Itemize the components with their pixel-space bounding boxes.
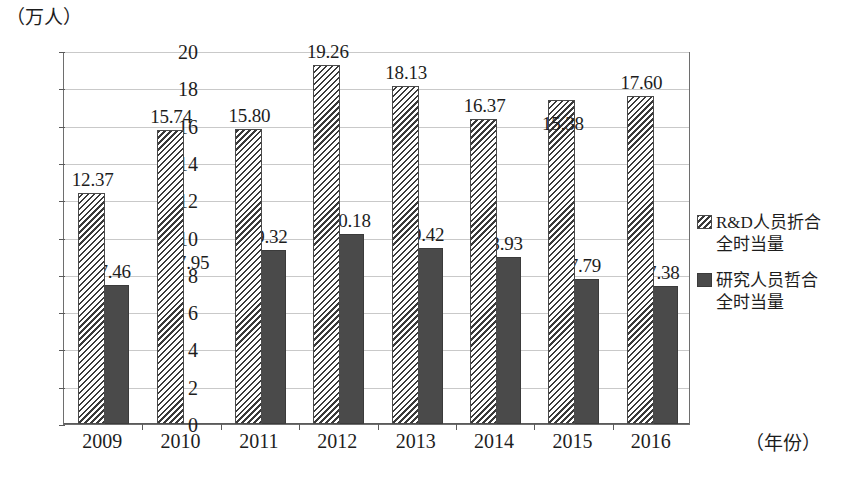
bar-research-personnel	[653, 286, 678, 424]
bar-chart: （万人） （年份） R&D人员折合 全时当量 研究人员哲合 全时当量 02468…	[0, 0, 863, 489]
y-axis-tick-mark	[59, 52, 65, 53]
legend-item-label-line2: 全时当量	[716, 234, 859, 256]
data-label-rd-personnel: 17.60	[620, 72, 662, 94]
y-axis-tick-label: 18	[138, 78, 198, 101]
y-axis-tick-mark	[59, 201, 65, 202]
bar-rd-personnel	[627, 96, 654, 424]
legend-item-label-line1: R&D人员折合	[716, 212, 859, 234]
x-axis-tick-label: 2015	[552, 430, 592, 453]
legend-item: R&D人员折合 全时当量	[697, 212, 859, 256]
solid-swatch-icon	[697, 273, 712, 287]
legend-item-label-line1: 研究人员哲合	[716, 270, 859, 292]
x-axis-tick-mark	[456, 424, 457, 430]
y-axis-unit-label: （万人）	[6, 2, 82, 29]
y-axis-tick-mark	[59, 127, 65, 128]
x-axis-tick-label: 2013	[396, 430, 436, 453]
y-axis-tick-mark	[59, 239, 65, 240]
x-axis-tick-label: 2014	[474, 430, 514, 453]
data-label-rd-personnel: 19.26	[307, 41, 349, 63]
hatch-swatch-icon	[697, 215, 712, 229]
legend-item-label-line2: 全时当量	[716, 292, 859, 314]
x-axis-unit-label: （年份）	[745, 428, 821, 455]
data-label-rd-personnel: 15.74	[150, 106, 192, 128]
x-axis-tick-mark	[378, 424, 379, 430]
chart-legend: R&D人员折合 全时当量 研究人员哲合 全时当量	[697, 212, 859, 328]
bar-research-personnel	[261, 250, 286, 424]
y-axis-tick-mark	[59, 276, 65, 277]
y-axis-tick-mark	[59, 388, 65, 389]
y-axis-tick-label: 20	[138, 41, 198, 64]
y-axis-tick-mark	[59, 313, 65, 314]
bar-rd-personnel	[392, 86, 419, 424]
bar-rd-personnel	[470, 119, 497, 424]
x-axis-tick-mark	[613, 424, 614, 430]
bar-research-personnel	[496, 257, 521, 424]
x-axis-tick-label: 2016	[631, 430, 671, 453]
bar-rd-personnel	[548, 100, 575, 425]
legend-item: 研究人员哲合 全时当量	[697, 270, 859, 314]
x-axis-tick-mark	[534, 424, 535, 430]
y-axis-tick-mark	[59, 164, 65, 165]
x-axis-tick-mark	[221, 424, 222, 430]
y-axis-tick-mark	[59, 350, 65, 351]
x-axis-tick-label: 2012	[317, 430, 357, 453]
bar-research-personnel	[574, 279, 599, 424]
data-label-rd-personnel: 18.13	[385, 62, 427, 84]
data-label-rd-personnel: 12.37	[72, 169, 114, 191]
data-label-rd-personnel: 15.80	[229, 105, 271, 127]
y-axis-tick-mark	[59, 89, 65, 90]
data-label-rd-personnel: 16.37	[464, 95, 506, 117]
x-axis-tick-label: 2009	[82, 430, 122, 453]
data-label-rd-personnel: 15.38	[542, 113, 584, 135]
y-axis-tick-mark	[59, 425, 65, 426]
x-axis-tick-label: 2010	[161, 430, 201, 453]
bar-rd-personnel	[313, 65, 340, 424]
bar-research-personnel	[339, 234, 364, 424]
x-axis-tick-label: 2011	[239, 430, 278, 453]
bar-research-personnel	[418, 248, 443, 424]
bar-research-personnel	[104, 285, 129, 424]
bar-rd-personnel	[157, 130, 184, 424]
bar-rd-personnel	[78, 193, 105, 424]
x-axis-tick-mark	[299, 424, 300, 430]
bar-rd-personnel	[235, 129, 262, 424]
